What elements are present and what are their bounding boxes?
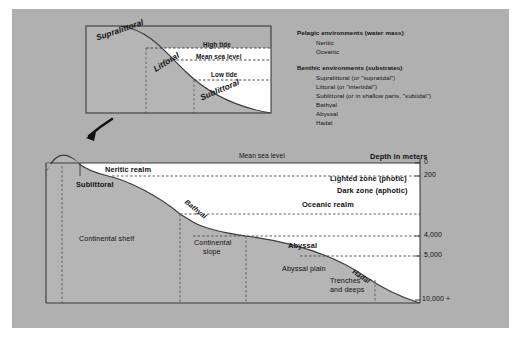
legend-item-hadal: Hadal [316,119,332,126]
pointer-arrow [89,119,112,136]
legend-item-neritic: Neritic [316,39,334,46]
main-label-continental-shelf: Continental shelf [79,234,134,243]
main-label-sublittoral: Sublittoral [76,180,114,189]
main-label-abyssal: Abyssal [288,241,317,250]
legend-heading-pelagic: Pelagic environments (water mass) [297,29,404,36]
depth-label-10000: 10,000 + [422,295,450,302]
inset-label-high-tide: High tide [203,41,231,48]
diagram-canvas [0,0,521,337]
depth-label-200: 200 [424,171,436,178]
main-label-dark-zone: Dark zone (aphotic) [337,186,407,195]
main-label-continental-slope-2: slope [203,247,221,256]
depth-label-0: 0 [424,158,428,165]
main-label-oceanic-realm: Oceanic realm [302,200,354,209]
main-label-neritic-realm: Neritic realm [105,165,151,174]
legend-item-supralittoral: Supralittoral (or "supratidal") [316,74,395,81]
main-label-continental-slope-1: Continental [194,238,231,247]
depth-label-4000: 4,000 [424,231,442,238]
main-label-trenches-2: and deeps [330,285,364,294]
inset-label-low-tide: Low tide [211,71,237,78]
legend-item-bathyal: Bathyal [316,101,337,108]
main-label-lighted-zone: Lighted zone (photic) [330,174,407,183]
main-label-mean-sea-level: Mean sea level [239,152,285,159]
depth-label-5000: 5,000 [424,251,442,258]
legend-item-littoral: Littoral (or "intertidal") [316,83,377,90]
legend-heading-benthic: Benthic environments (substrates) [297,64,402,71]
legend-item-sublittoral: Sublittoral (or in shallow parts, "subti… [316,92,431,99]
main-label-abyssal-plain: Abyssal plain [282,264,326,273]
figure-page: Supralittoral Littoral Sublittoral High … [0,0,521,337]
legend-item-abyssal: Abyssal [316,110,338,117]
inset-group [86,26,271,141]
main-label-trenches-1: Trenches [330,276,361,285]
depth-axis-title: Depth in meters [370,152,427,161]
inset-label-mean-sea-level: Mean sea level [196,53,242,60]
legend-item-oceanic: Oceanic [316,48,339,55]
